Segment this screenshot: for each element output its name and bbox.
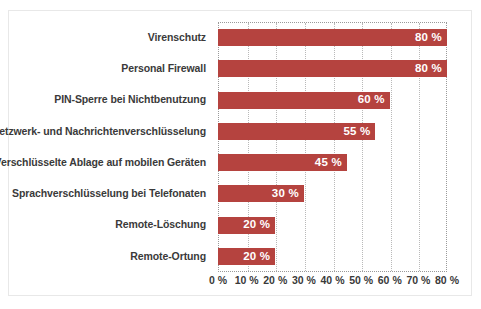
- bar[interactable]: 45 %: [218, 154, 347, 171]
- bar-chart: 80 %80 %60 %55 %45 %30 %20 %20 % Virensc…: [0, 0, 481, 309]
- bar-row[interactable]: 60 %: [218, 85, 447, 116]
- bar-value-label: 55 %: [343, 126, 370, 138]
- x-tick-label: 10 %: [235, 275, 259, 286]
- bar-value-label: 20 %: [243, 219, 270, 231]
- category-label: Sprachverschlüsselung bei Telefonaten: [12, 188, 206, 200]
- bar-value-label: 60 %: [358, 94, 385, 106]
- category-label-row: PIN-Sperre bei Nichtbenutzung: [12, 85, 212, 116]
- x-tick-label: 70 %: [406, 275, 430, 286]
- bar[interactable]: 20 %: [218, 217, 275, 234]
- bar[interactable]: 60 %: [218, 92, 390, 109]
- category-label: Remote-Löschung: [115, 219, 206, 231]
- category-axis-labels: VirenschutzPersonal FirewallPIN-Sperre b…: [12, 22, 212, 272]
- category-label: Netzwerk- und Nachrichtenverschlüsselung: [0, 126, 206, 138]
- x-tick-label: 30 %: [292, 275, 316, 286]
- category-label: Verschlüsselte Ablage auf mobilen Geräte…: [0, 157, 206, 169]
- category-label-row: Sprachverschlüsselung bei Telefonaten: [12, 178, 212, 209]
- x-tick-label: 60 %: [378, 275, 402, 286]
- category-label-row: Virenschutz: [12, 22, 212, 53]
- x-tick-label: 20 %: [263, 275, 287, 286]
- x-tick-label: 0 %: [209, 275, 227, 286]
- category-label-row: Remote-Löschung: [12, 210, 212, 241]
- bar-value-label: 80 %: [415, 63, 442, 75]
- x-tick-label: 50 %: [349, 275, 373, 286]
- bar[interactable]: 55 %: [218, 123, 375, 140]
- category-label: Personal Firewall: [121, 63, 206, 75]
- category-label-row: Remote-Ortung: [12, 241, 212, 272]
- x-axis-tick-labels: 0 %10 %20 %30 %40 %50 %60 %70 %80 %: [218, 275, 447, 293]
- caption-strip: [10, 300, 472, 308]
- category-label-row: Netzwerk- und Nachrichtenverschlüsselung: [12, 116, 212, 147]
- bar-value-label: 20 %: [243, 251, 270, 263]
- bar-row[interactable]: 55 %: [218, 116, 447, 147]
- x-tick-label: 80 %: [435, 275, 459, 286]
- category-label: Virenschutz: [148, 32, 206, 44]
- bar[interactable]: 30 %: [218, 185, 304, 202]
- bar-row[interactable]: 45 %: [218, 147, 447, 178]
- bar-value-label: 30 %: [272, 188, 299, 200]
- bar[interactable]: 80 %: [218, 29, 447, 46]
- bar[interactable]: 80 %: [218, 60, 447, 77]
- category-label: Remote-Ortung: [130, 251, 206, 263]
- bar-row[interactable]: 80 %: [218, 53, 447, 84]
- bar-value-label: 80 %: [415, 32, 442, 44]
- category-label-row: Verschlüsselte Ablage auf mobilen Geräte…: [12, 147, 212, 178]
- x-tick-label: 40 %: [321, 275, 345, 286]
- bar-rows: 80 %80 %60 %55 %45 %30 %20 %20 %: [218, 22, 447, 272]
- category-label: PIN-Sperre bei Nichtbenutzung: [54, 94, 206, 106]
- bar-row[interactable]: 30 %: [218, 178, 447, 209]
- category-label-row: Personal Firewall: [12, 53, 212, 84]
- bar[interactable]: 20 %: [218, 248, 275, 265]
- bar-row[interactable]: 20 %: [218, 241, 447, 272]
- bar-row[interactable]: 80 %: [218, 22, 447, 53]
- bar-value-label: 45 %: [315, 157, 342, 169]
- bar-row[interactable]: 20 %: [218, 210, 447, 241]
